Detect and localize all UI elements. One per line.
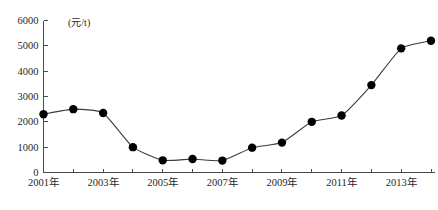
x-tick-label: 2009年 [266, 176, 297, 188]
y-tick-marks [44, 21, 48, 173]
series-markers-price [39, 37, 435, 165]
x-tick-label: 2007年 [207, 176, 238, 188]
series-line-price [44, 41, 432, 161]
y-tick-label: 5000 [18, 40, 39, 51]
data-point [367, 81, 375, 89]
y-tick-labels: 0100020003000400050006000 [18, 15, 39, 178]
x-tick-label: 2001年 [28, 176, 59, 188]
data-point [159, 156, 167, 164]
data-point [337, 111, 345, 119]
x-tick-labels: 2001年2003年2005年2007年2009年2011年2013年 [28, 176, 417, 188]
x-tick-label: 2013年 [386, 176, 417, 188]
data-point [427, 37, 435, 45]
data-point [129, 143, 137, 151]
y-axis-unit-label: (元/t) [68, 17, 90, 29]
data-point [248, 143, 256, 151]
x-tick-label: 2005年 [147, 176, 178, 188]
data-point [218, 156, 226, 164]
x-tick-label: 2003年 [88, 176, 119, 188]
y-tick-label: 3000 [18, 91, 39, 102]
data-point [308, 118, 316, 126]
data-point [69, 105, 77, 113]
y-tick-label: 4000 [18, 66, 39, 77]
y-tick-label: 6000 [18, 15, 39, 26]
x-tick-label: 2011年 [326, 176, 357, 188]
data-point [188, 155, 196, 163]
line-chart: 0100020003000400050006000 2001年2003年2005… [0, 0, 438, 210]
y-tick-label: 2000 [18, 116, 39, 127]
x-tick-marks [44, 169, 432, 173]
y-tick-label: 1000 [18, 142, 39, 153]
data-point [278, 138, 286, 146]
x-axis-group: 2001年2003年2005年2007年2009年2011年2013年 [28, 169, 435, 188]
data-point [39, 110, 47, 118]
chart-canvas: 0100020003000400050006000 2001年2003年2005… [0, 0, 438, 210]
data-point [397, 44, 405, 52]
data-point [99, 109, 107, 117]
y-axis-group: 0100020003000400050006000 [18, 15, 48, 178]
